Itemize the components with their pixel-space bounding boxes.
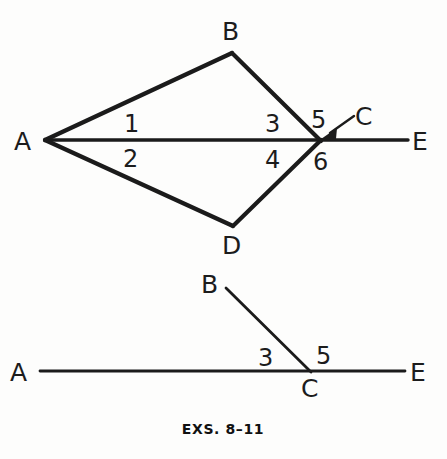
label-B-top: B bbox=[222, 17, 239, 46]
segment-AD bbox=[45, 140, 233, 226]
diagram-canvas: A B C D E 1 2 3 4 5 6 A B C E 3 5 bbox=[0, 0, 447, 459]
angle-label-1: 1 bbox=[124, 110, 139, 138]
angle-label-5: 5 bbox=[311, 106, 326, 134]
label-C-bottom: C bbox=[301, 374, 318, 403]
angle-label-3-bottom: 3 bbox=[258, 344, 273, 372]
angle-label-4: 4 bbox=[265, 146, 280, 174]
label-B-bottom: B bbox=[201, 270, 218, 299]
geometry-figure: A B C D E 1 2 3 4 5 6 A B C E 3 5 bbox=[0, 0, 447, 459]
label-E-bottom: E bbox=[410, 358, 426, 387]
label-A-top: A bbox=[14, 127, 31, 156]
angle-label-5-bottom: 5 bbox=[316, 342, 331, 370]
top-diagram: A B C D E 1 2 3 4 5 6 bbox=[14, 17, 428, 260]
angle-label-2: 2 bbox=[123, 145, 138, 173]
label-A-bottom: A bbox=[10, 358, 27, 387]
angle-label-3: 3 bbox=[265, 110, 280, 138]
angle-label-6: 6 bbox=[313, 148, 328, 176]
bottom-diagram: A B C E 3 5 bbox=[10, 270, 426, 403]
figure-caption: EXS. 8–11 bbox=[182, 421, 264, 437]
label-E-top: E bbox=[412, 127, 428, 156]
label-C-top: C bbox=[355, 102, 372, 131]
label-D-top: D bbox=[222, 231, 241, 260]
